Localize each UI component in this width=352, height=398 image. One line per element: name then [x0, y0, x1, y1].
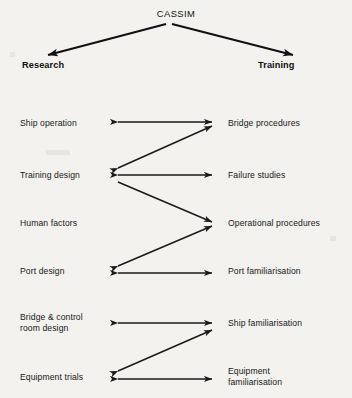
row-2-to-row-3-diagonal	[118, 182, 212, 222]
row-6-to-row-5-diagonal	[118, 330, 212, 371]
diagram-connectors	[0, 0, 352, 398]
clipped-figure-caption	[0, 391, 352, 398]
row-3-to-row-2-diagonal	[118, 126, 212, 168]
root-branch-arrows	[48, 24, 293, 55]
row-4-to-row-3-diagonal	[118, 226, 212, 266]
cassim-relationship-diagram: CASSIM Research Training Ship operation …	[0, 0, 352, 398]
